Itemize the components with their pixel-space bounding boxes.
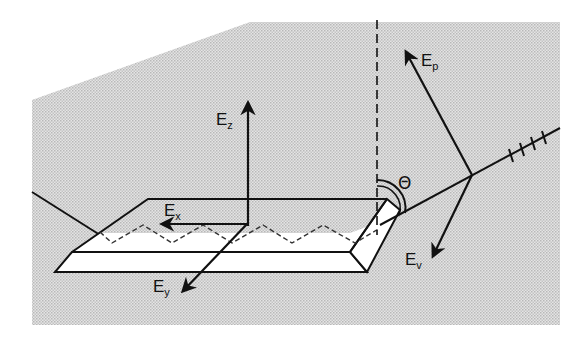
waveguide-diagram: Ez Ex Ey Ep Ev Θ (0, 0, 586, 339)
theta-label: Θ (398, 173, 411, 193)
shaded-plane (32, 22, 560, 325)
